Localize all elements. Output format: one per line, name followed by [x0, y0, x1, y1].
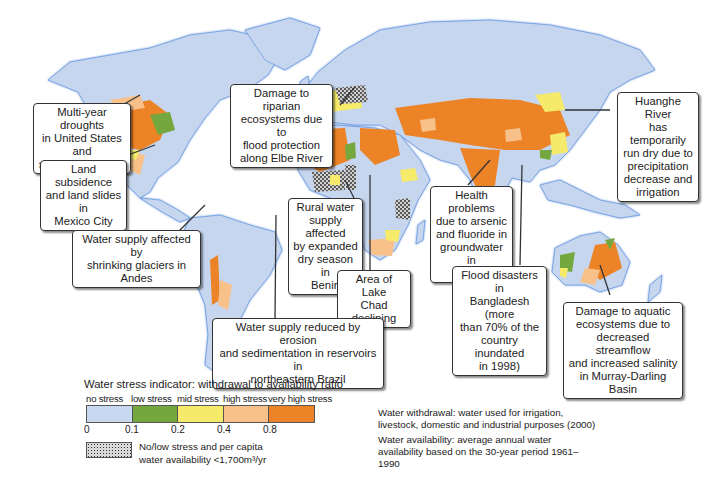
note-water-withdrawal: Water withdrawal: water used for irrigat… [378, 407, 598, 431]
legend-title: Water stress indicator: withdrawal to av… [84, 378, 343, 390]
callout-huanghe: Huanghe River has temporarily run dry du… [617, 92, 699, 202]
legend-label-high-stress: high stress [223, 393, 267, 404]
legend-color-scale [86, 405, 315, 423]
callout-murray-darling: Damage to aquatic ecosystems due to decr… [563, 302, 683, 399]
legend-tick-0: 0 [84, 424, 90, 435]
legend-tick-0-1: 0.1 [125, 424, 139, 435]
callout-andes: Water supply affected by shrinking glaci… [72, 230, 201, 288]
legend-swatch-low-stress [133, 406, 179, 422]
legend-hatch-swatch [86, 442, 132, 458]
central-america [140, 198, 190, 222]
callout-mexico-city: Land subsidence and land slides in Mexic… [40, 160, 127, 231]
note-water-availability: Water availability: average annual water… [378, 434, 598, 470]
legend-label-very-high-stress: very high stress [268, 393, 332, 404]
callout-elbe: Damage to riparian ecosystems due to flo… [230, 84, 333, 168]
callout-bangladesh: Flood disasters in Bangladesh (more than… [452, 266, 547, 376]
legend-swatch-very-high-stress [269, 406, 314, 422]
legend-swatch-mid-stress [178, 406, 224, 422]
legend-tick-0-4: 0.4 [217, 424, 231, 435]
legend-hatch-label: No/low stress and per capita water avail… [139, 440, 289, 466]
new-zealand [648, 275, 662, 302]
legend-swatch-no-stress [87, 406, 133, 422]
legend-tick-0-2: 0.2 [171, 424, 185, 435]
legend-swatch-high-stress [224, 406, 270, 422]
legend-label-low-stress: low stress [131, 393, 172, 404]
legend-label-no-stress: no stress [86, 393, 123, 404]
legend-tick-0-8: 0.8 [263, 424, 277, 435]
legend-label-mid-stress: mid stress [177, 393, 219, 404]
